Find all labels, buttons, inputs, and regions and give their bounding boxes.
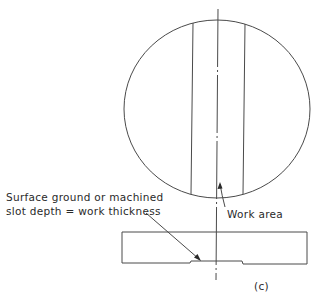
panel-label: (c)	[254, 280, 269, 292]
diagram-canvas: Surface ground or machined slot depth = …	[0, 0, 315, 307]
slot-left-edge	[191, 23, 193, 194]
annotation-surface-line2: slot depth = work thickness	[6, 205, 161, 217]
center-line	[216, 9, 218, 280]
side-view-bar	[122, 232, 307, 264]
annotation-surface-line1: Surface ground or machined	[6, 191, 164, 203]
arrowhead-icon	[218, 182, 223, 189]
slot-right-edge	[243, 24, 245, 194]
annotation-work-area: Work area	[227, 208, 283, 220]
surface-leader	[146, 213, 199, 259]
